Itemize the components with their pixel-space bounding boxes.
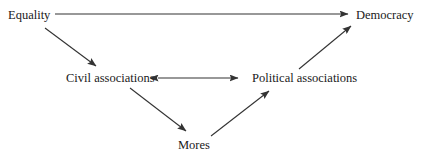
node-label-political-associations: Political associations — [252, 72, 357, 85]
node-label-mores: Mores — [178, 139, 210, 152]
edge-mores-to-political-associations — [211, 91, 269, 136]
edge-political-associations-to-democracy — [299, 26, 351, 69]
edge-equality-to-civil-associations — [45, 28, 96, 66]
diagram-canvas: Equality Democracy Civil associations Po… — [0, 0, 426, 160]
node-label-civil-associations: Civil associations — [66, 72, 155, 85]
node-label-equality: Equality — [8, 9, 50, 22]
node-label-democracy: Democracy — [356, 9, 414, 22]
edge-civil-associations-to-mores — [130, 88, 186, 131]
diagram-arrows — [0, 0, 426, 160]
